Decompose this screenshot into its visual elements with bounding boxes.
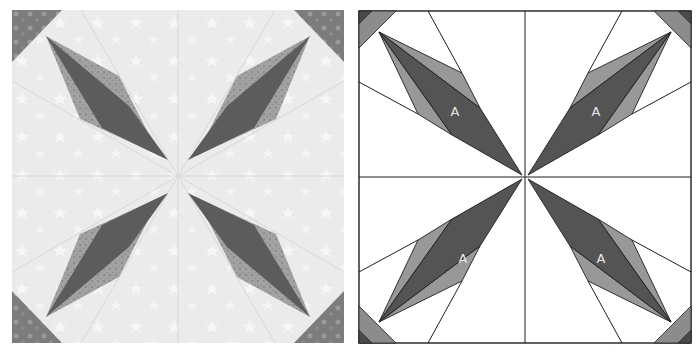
piece-label-a-bottom-right: A	[597, 251, 606, 266]
piece-label-a-top-left: A	[451, 104, 460, 119]
piece-label-a-top-right: A	[592, 104, 601, 119]
piece-label-a-bottom-left: A	[459, 251, 468, 266]
diagram-graphic: A A A A	[358, 10, 692, 344]
photo-graphic	[12, 10, 344, 343]
piecing-diagram: A A A A	[358, 10, 692, 344]
faint-caption: · · · · ·	[590, 345, 616, 352]
quilt-block-photo	[12, 10, 344, 343]
